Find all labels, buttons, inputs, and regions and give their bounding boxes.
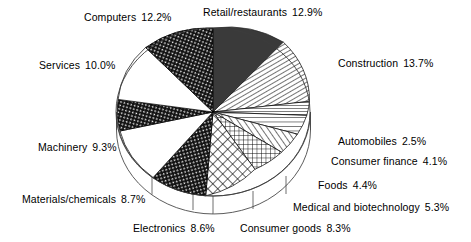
label-electronics: Electronics8.6%: [133, 222, 215, 234]
label-services: Services10.0%: [39, 59, 115, 71]
label-computers-name: Computers: [84, 11, 136, 23]
label-consumer-finance-pct: 4.1%: [423, 155, 447, 167]
label-electronics-name: Electronics: [133, 222, 185, 234]
label-construction-name: Construction: [338, 57, 398, 69]
label-materials-chemicals: Materials/chemicals8.7%: [22, 193, 145, 205]
label-services-pct: 10.0%: [85, 59, 115, 71]
label-construction: Construction13.7%: [338, 57, 433, 69]
label-electronics-pct: 8.6%: [190, 222, 214, 234]
label-consumer-finance: Consumer finance4.1%: [331, 155, 447, 167]
label-automobiles: Automobiles2.5%: [338, 135, 426, 147]
label-construction-pct: 13.7%: [403, 57, 433, 69]
label-retail-restaurants: Retail/restaurants12.9%: [203, 6, 322, 18]
pie-chart: Computers12.2% Retail/restaurants12.9% C…: [0, 0, 471, 242]
label-computers-pct: 12.2%: [141, 11, 171, 23]
label-retail-restaurants-name: Retail/restaurants: [203, 6, 287, 18]
label-consumer-finance-name: Consumer finance: [331, 155, 418, 167]
label-medical-and-biotechnology-name: Medical and biotechnology: [293, 201, 420, 213]
label-computers: Computers12.2%: [84, 11, 172, 23]
label-machinery-pct: 9.3%: [92, 141, 116, 153]
label-materials-chemicals-name: Materials/chemicals: [22, 193, 116, 205]
label-retail-restaurants-pct: 12.9%: [292, 6, 322, 18]
label-consumer-goods: Consumer goods8.3%: [240, 222, 351, 234]
label-foods-pct: 4.4%: [353, 179, 377, 191]
label-services-name: Services: [39, 59, 80, 71]
label-consumer-goods-pct: 8.3%: [326, 222, 350, 234]
label-foods-name: Foods: [318, 179, 348, 191]
label-consumer-goods-name: Consumer goods: [240, 222, 321, 234]
label-machinery-name: Machinery: [38, 141, 87, 153]
label-machinery: Machinery9.3%: [38, 141, 117, 153]
label-materials-chemicals-pct: 8.7%: [121, 193, 145, 205]
label-automobiles-pct: 2.5%: [402, 135, 426, 147]
label-medical-and-biotechnology: Medical and biotechnology5.3%: [293, 201, 449, 213]
label-automobiles-name: Automobiles: [338, 135, 397, 147]
label-medical-and-biotechnology-pct: 5.3%: [425, 201, 449, 213]
label-foods: Foods4.4%: [318, 179, 377, 191]
